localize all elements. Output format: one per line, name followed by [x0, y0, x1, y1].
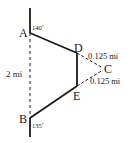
- angle-A-label: 140º: [32, 24, 44, 31]
- segment-EB: [30, 86, 77, 118]
- label-point-B: B: [19, 112, 27, 126]
- label-point-D: D: [74, 41, 83, 55]
- segment-AD: [30, 33, 77, 53]
- geometry-diagram: A B D E C 140º 135º 2 mi 0.125 mi 0.125 …: [0, 0, 134, 143]
- length-AB-label: 2 mi: [6, 69, 23, 79]
- diagram-svg: A B D E C 140º 135º 2 mi 0.125 mi 0.125 …: [0, 0, 134, 143]
- length-EC-label: 0.125 mi: [90, 76, 121, 86]
- angle-B-label: 135º: [32, 122, 44, 129]
- label-point-E: E: [73, 89, 80, 103]
- label-point-C: C: [104, 62, 112, 76]
- length-DC-label: 0.125 mi: [88, 51, 119, 61]
- label-point-A: A: [19, 26, 28, 40]
